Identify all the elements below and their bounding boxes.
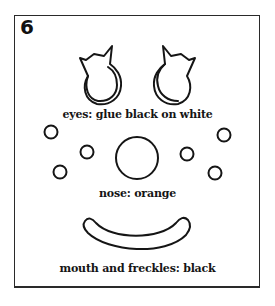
left-eye-shape (80, 46, 121, 104)
clown-face-cutout-art (0, 0, 275, 306)
freckle-right-mid (181, 148, 194, 161)
eyes-instruction-label: eyes: glue black on white (0, 108, 275, 121)
freckle-left-mid (81, 146, 94, 159)
freckle-right-top (218, 129, 231, 142)
mouth-shape (84, 218, 191, 249)
freckle-right-bottom (209, 167, 222, 180)
nose-instruction-label: nose: orange (0, 187, 275, 200)
freckle-left-bottom (54, 166, 67, 179)
right-eye-shape (154, 46, 195, 104)
nose-circle (116, 137, 158, 179)
mouth-freckles-instruction-label: mouth and freckles: black (0, 262, 275, 275)
freckle-left-top (45, 126, 58, 139)
